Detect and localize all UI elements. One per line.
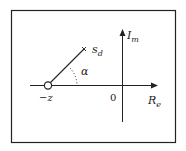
origin-label: 0 <box>110 92 116 103</box>
imag-axis-arrow-icon <box>120 29 126 36</box>
zero-label: −z <box>39 92 53 103</box>
frame <box>12 11 176 143</box>
zero-to-sd-line <box>50 49 84 83</box>
zero-circle-icon <box>44 82 51 89</box>
imag-axis-label: Im <box>126 29 139 44</box>
pole-zero-diagram: sd α Im Re 0 −z <box>0 0 186 151</box>
alpha-label: α <box>81 65 89 78</box>
real-axis-arrow-icon <box>151 83 158 89</box>
real-axis-label: Re <box>147 94 161 109</box>
angle-arc <box>70 68 77 84</box>
sd-label: sd <box>92 43 103 58</box>
pole-cross-icon <box>82 47 86 51</box>
